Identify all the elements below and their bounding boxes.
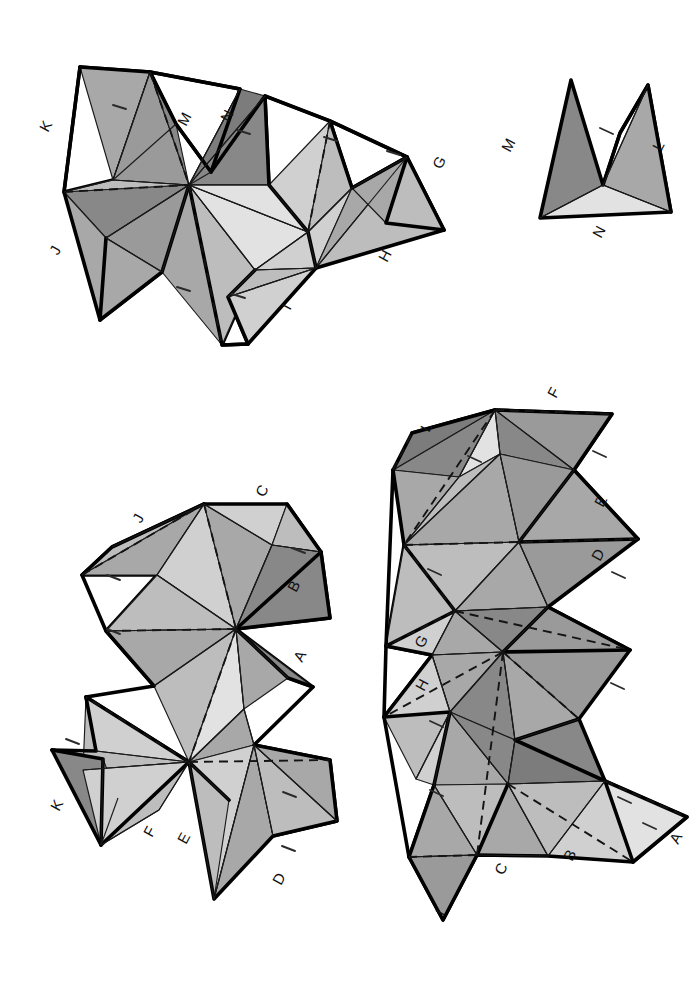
fold-tick <box>612 572 625 578</box>
br-f32 <box>409 855 477 920</box>
fold-tick <box>66 739 79 744</box>
net-label-A2: A <box>666 829 686 846</box>
net-label-M2: M <box>498 135 519 154</box>
fold-tick <box>600 128 613 134</box>
net-label-E: E <box>174 829 194 846</box>
net-label-F: F <box>140 823 159 839</box>
piece-bottom-left[interactable]: C J B A K F E D <box>47 482 337 899</box>
net-label-K: K <box>36 117 56 134</box>
piece-top-right[interactable]: M L N <box>498 80 671 240</box>
fold-tick <box>611 683 624 689</box>
net-label-G: G <box>429 153 450 172</box>
net-label-K2: K <box>47 796 67 813</box>
face-group-bottom-right <box>384 410 687 920</box>
net-label-D: D <box>269 870 289 888</box>
fold-tick <box>282 846 295 851</box>
net-sheet: K M N G J H I <box>0 0 692 985</box>
net-label-C2: C <box>491 860 511 878</box>
net-label-F2: F <box>544 384 563 400</box>
net-canvas: K M N G J H I <box>0 0 692 985</box>
net-label-C: C <box>252 482 272 500</box>
net-label-J: J <box>46 243 65 258</box>
bl-f22 <box>83 762 189 845</box>
net-label-N2: N <box>589 223 609 241</box>
piece-top-left[interactable]: K M N G J H I <box>36 67 450 345</box>
fold-tick <box>593 451 606 457</box>
net-label-H: H <box>375 247 395 265</box>
piece-bottom-right[interactable]: F L E D G H A B C I <box>384 384 687 920</box>
net-label-J2: J <box>129 511 148 526</box>
fold-tick-group-top-right <box>600 128 613 134</box>
net-label-A: A <box>290 647 310 664</box>
